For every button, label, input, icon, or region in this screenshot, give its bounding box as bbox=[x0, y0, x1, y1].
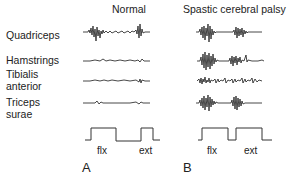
step-trace-spastic bbox=[198, 128, 272, 140]
panel-label-a: A bbox=[82, 160, 91, 175]
phase-label-a-flexion: flx bbox=[97, 145, 107, 156]
trace-normal-tibialis bbox=[83, 79, 150, 83]
trace-spastic-hamstrings bbox=[197, 52, 264, 70]
trace-normal-triceps bbox=[83, 101, 150, 104]
trace-spastic-quadriceps bbox=[196, 24, 262, 42]
step-trace-normal bbox=[85, 128, 160, 141]
phase-label-a-extension: ext bbox=[139, 145, 152, 156]
phase-label-b-extension: ext bbox=[244, 145, 257, 156]
trace-spastic-triceps bbox=[196, 95, 262, 111]
trace-normal-quadriceps bbox=[83, 24, 150, 41]
panel-label-b: B bbox=[183, 160, 192, 175]
trace-spastic-tibialis bbox=[197, 77, 262, 84]
phase-label-b-flexion: flx bbox=[207, 145, 217, 156]
trace-normal-hamstrings bbox=[83, 59, 150, 62]
